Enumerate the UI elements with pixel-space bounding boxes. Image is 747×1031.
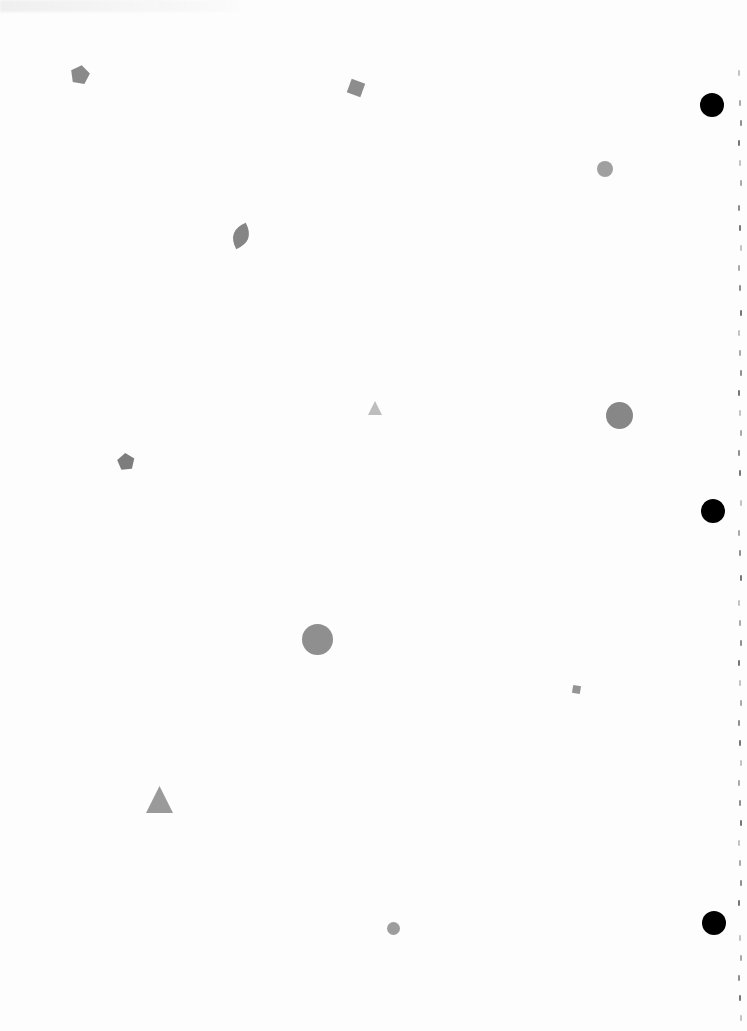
bleed-mark [740,575,742,581]
triangle-shape [146,786,173,813]
bleed-mark [738,390,740,396]
bleed-mark [739,160,741,166]
bleed-mark [739,100,741,106]
bleed-mark [738,140,740,146]
bleed-mark [739,285,741,291]
bleed-mark [738,70,740,76]
circle-shape [606,402,633,429]
bleed-mark [739,935,741,941]
bleed-mark [738,450,740,456]
binder-punch-hole [701,499,725,523]
bleed-mark [740,245,742,251]
bleed-mark [740,760,742,766]
triangle-shape [368,401,382,415]
bleed-mark [739,470,741,476]
bleed-mark [740,820,742,826]
bleed-mark [738,900,740,906]
bleed-mark [740,430,742,436]
bleed-mark [738,265,740,271]
bleed-mark [739,680,741,686]
bleed-mark [740,500,742,506]
bleed-mark [739,620,741,626]
bleed-mark [740,955,742,961]
pentagon-shape [117,453,135,471]
square-shape [571,684,582,695]
bleed-mark [740,370,742,376]
bleed-mark [738,840,740,846]
bleed-mark [739,860,741,866]
scanned-page [0,0,747,1031]
right-margin-bleed-marks [738,0,747,1031]
bleed-mark [740,1015,742,1021]
bleed-mark [738,720,740,726]
bleed-mark [738,330,740,336]
bleed-mark [740,120,742,126]
bleed-mark [740,640,742,646]
bleed-mark [739,350,741,356]
bleed-mark [740,700,742,706]
circle-shape [302,624,333,655]
binder-punch-hole [700,93,724,117]
circle-shape [597,161,613,177]
faint-bleed-through-text [0,0,240,12]
leaf-shape [227,222,255,250]
square-shape [346,78,366,98]
bleed-mark [739,225,741,231]
binder-punch-hole [702,911,726,935]
pentagon-shape [70,65,90,85]
bleed-mark [738,600,740,606]
bleed-mark [738,205,740,211]
bleed-mark [740,180,742,186]
bleed-mark [739,995,741,1001]
bleed-mark [740,310,742,316]
bleed-mark [738,975,740,981]
bleed-mark [738,530,740,536]
bleed-mark [740,880,742,886]
bleed-mark [739,550,741,556]
bleed-mark [739,410,741,416]
bleed-mark [739,740,741,746]
circle-shape [387,922,400,935]
bleed-mark [739,800,741,806]
bleed-mark [738,780,740,786]
bleed-mark [738,660,740,666]
